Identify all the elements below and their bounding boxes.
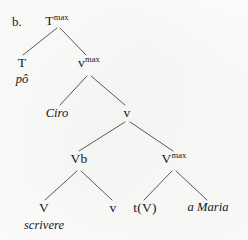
node-t-base: T [18,55,26,70]
node-v-max-upper-sup: max [85,54,100,64]
node-trace-of-v: t(V) [133,201,156,215]
tree-edge-vmaxlower-to-am [176,171,207,200]
panel-label: b. [12,15,22,28]
node-v-max-lower-base: V [161,151,171,166]
node-little-v-sister: v [110,201,117,215]
node-vb-base: Vb [71,151,88,166]
node-v-max-upper-base: v [78,55,85,70]
node-little-v-base: v [124,105,131,120]
terminal-scrivere: scrivere [24,219,64,232]
tree-edge-vb-to-bigv [45,171,77,200]
node-big-v-base: V [39,200,49,215]
tree-edge-vmax-to-v [91,76,125,105]
node-t-max-sup: max [54,12,69,22]
terminal-ciro: Ciro [46,107,69,120]
node-little-v: v [124,106,131,120]
node-vb: Vb [71,152,88,166]
node-trace-of-v-base: t(V) [133,200,156,215]
node-v-max-lower-sup: max [171,150,186,160]
tree-edge-v-to-vmaxlower [130,122,173,151]
tree-edge-root-to-vmax [60,28,86,55]
terminal-a-maria: a Maria [188,201,229,214]
tree-edge-root-to-t [23,28,57,55]
tree-edge-vmaxlower-to-t [144,171,172,200]
syntax-tree-figure: b. Tmax T pô vmax Ciro v Vb Vmax V scriv… [0,0,248,240]
tree-edge-vmax-to-ciro [60,76,87,105]
node-v-max-upper: vmax [78,56,100,70]
tree-edge-vb-to-littlev [81,171,112,200]
node-little-v-sister-base: v [110,200,117,215]
node-t-max: Tmax [45,14,69,28]
node-v-max-lower: Vmax [161,152,186,166]
tree-edge-v-to-vb [79,122,125,151]
node-t: T [18,56,26,70]
node-big-v: V [39,201,49,215]
terminal-po: pô [16,73,29,86]
